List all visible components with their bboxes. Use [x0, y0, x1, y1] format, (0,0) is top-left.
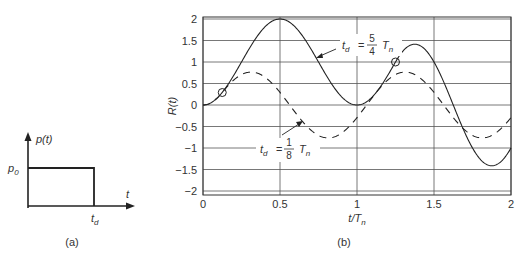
x-tick-label: 0.5	[272, 198, 287, 210]
annotation-td-1-8: td = 1 8 Tn	[256, 121, 320, 162]
ann2-den: 8	[286, 150, 292, 161]
panel-b-response-chart: 21.510.50−0.5−1−1.5−2 00.511.52 R(t) t/T…	[166, 13, 514, 248]
pb-caption: (b)	[337, 236, 350, 248]
annotation-td-5-4: td = 5 4 Tn	[316, 33, 402, 58]
pb-ylabel: R(t)	[166, 97, 178, 116]
ann1-den: 4	[369, 46, 375, 57]
y-tick-label: 2	[191, 13, 197, 25]
pa-x-axis-arrow-icon	[126, 203, 135, 210]
x-tick-label: 1	[354, 198, 360, 210]
y-tick-label: −1.5	[175, 164, 197, 176]
pb-xlabel: t/Tn	[348, 212, 366, 227]
y-tick-label: −1	[184, 142, 197, 154]
y-tick-labels: 21.510.50−0.5−1−1.5−2	[175, 13, 197, 197]
y-tick-label: 0	[191, 99, 197, 111]
y-tick-label: 1.5	[182, 35, 197, 47]
ann2-eq: =	[276, 143, 282, 155]
x-tick-labels: 00.511.52	[200, 198, 514, 210]
ann2-arrow-line	[282, 124, 299, 135]
pa-level-label-main: p	[7, 162, 14, 174]
ann2-num: 1	[286, 137, 292, 148]
ann1-num: 5	[369, 33, 375, 44]
x-tick-label: 1.5	[426, 198, 441, 210]
figure: p(t) p0 t td (a) 21.510.50−0.5−1−1.5−2 0…	[0, 0, 525, 254]
y-tick-label: −2	[184, 185, 197, 197]
pb-xlabel-sub: n	[361, 218, 366, 227]
y-tick-label: −0.5	[175, 121, 197, 133]
pa-pulse-shape	[28, 168, 94, 206]
x-tick-label: 0	[200, 198, 206, 210]
pa-td-label: td	[91, 212, 99, 227]
panel-a-pulse-diagram: p(t) p0 t td (a)	[7, 132, 135, 248]
ann1-eq: =	[358, 39, 364, 51]
x-tick-label: 2	[508, 198, 514, 210]
ann1-arrow-icon	[316, 53, 323, 58]
pa-level-label-sub: 0	[14, 168, 19, 177]
pa-td-label-sub: d	[94, 218, 99, 227]
ann1-arrow-line	[320, 49, 336, 56]
pa-y-axis-arrow-icon	[25, 132, 32, 141]
pa-ylabel: p(t)	[35, 133, 53, 145]
pa-caption: (a)	[65, 236, 78, 248]
y-tick-label: 0.5	[182, 78, 197, 90]
y-tick-label: 1	[191, 56, 197, 68]
pa-xlabel: t	[126, 188, 130, 200]
pa-level-label: p0	[7, 162, 19, 177]
